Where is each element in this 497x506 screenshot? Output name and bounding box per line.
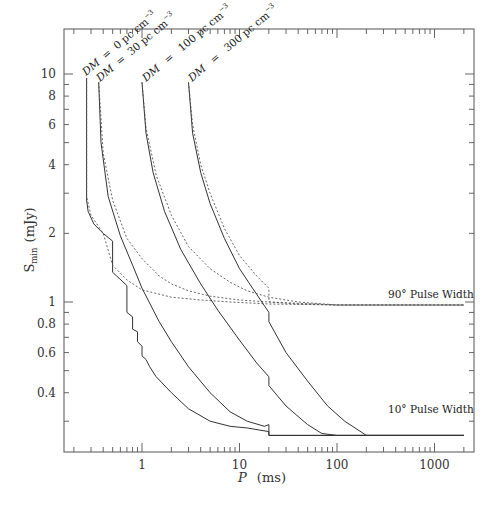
y-tick-label: 0.4 (37, 386, 56, 400)
y-tick-label: 0.6 (37, 346, 56, 360)
y-tick-label: 8 (48, 89, 56, 103)
pulse-width-90-label: 90° Pulse Width (388, 288, 474, 300)
pulse-width-10-label: 10° Pulse Width (388, 403, 474, 415)
plot-background (0, 0, 497, 506)
x-tick-label: 1000 (419, 458, 450, 472)
x-tick-label: 100 (326, 458, 349, 472)
chart: 11010010000.40.60.81246810 P (ms) Smin(m… (0, 0, 497, 506)
y-tick-label: 1 (48, 295, 56, 309)
y-tick-label: 2 (48, 226, 56, 240)
x-axis-title: P (ms) (237, 470, 286, 485)
x-axis-var: P (237, 470, 247, 485)
y-tick-label: 4 (48, 158, 56, 172)
y-axis-unit: (mJy) (22, 207, 37, 242)
y-tick-label: 10 (41, 67, 56, 81)
y-axis-sub: min (29, 247, 39, 264)
x-axis-unit: (ms) (257, 470, 286, 485)
y-tick-label: 0.8 (37, 317, 56, 331)
y-tick-label: 6 (48, 118, 56, 132)
x-tick-label: 1 (138, 458, 146, 472)
y-axis-var: S (22, 264, 37, 273)
